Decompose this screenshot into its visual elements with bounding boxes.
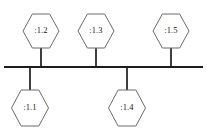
node-1-3[interactable]: :1.3 [78, 14, 114, 48]
node-1-5[interactable]: :1.5 [153, 14, 189, 48]
node-1-2[interactable]: :1.2 [23, 14, 59, 48]
node-label: :1.5 [164, 25, 177, 35]
connector-layer [30, 48, 171, 90]
node-label: :1.4 [120, 102, 134, 112]
node-layer: :1.2:1.3:1.5:1.1:1.4 [12, 14, 190, 126]
node-1-4[interactable]: :1.4 [109, 90, 146, 126]
node-label: :1.1 [23, 102, 36, 112]
node-label: :1.2 [34, 25, 47, 35]
node-bus-diagram: :1.2:1.3:1.5:1.1:1.4 [0, 0, 207, 134]
node-label: :1.3 [89, 25, 102, 35]
diagram-canvas: :1.2:1.3:1.5:1.1:1.4 [0, 0, 207, 134]
node-1-1[interactable]: :1.1 [12, 90, 49, 126]
